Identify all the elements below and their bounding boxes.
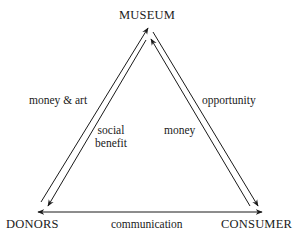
flow-arrows xyxy=(0,0,303,241)
label-money: money xyxy=(164,124,195,137)
arrow-donors-to-museum xyxy=(41,28,148,202)
label-money-and-art: money & art xyxy=(29,94,87,107)
label-benefit: benefit xyxy=(91,137,131,150)
arrow-museum-to-consumer xyxy=(153,32,258,206)
label-social: social xyxy=(91,124,131,137)
label-opportunity: opportunity xyxy=(202,94,256,107)
node-donors: DONORS xyxy=(6,217,59,232)
arrow-museum-to-donors xyxy=(48,40,146,206)
node-museum: MUSEUM xyxy=(119,8,175,23)
label-communication: communication xyxy=(111,218,183,231)
arrow-consumer-to-museum xyxy=(151,39,250,206)
label-social-benefit: social benefit xyxy=(91,124,131,150)
node-consumer: CONSUMER xyxy=(221,217,292,232)
